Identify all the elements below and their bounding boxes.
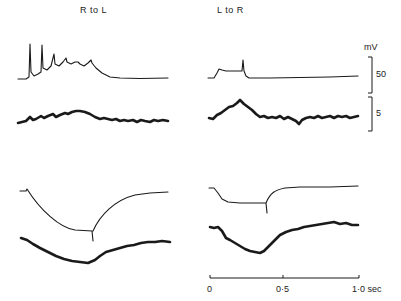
trace-r-to-l-hyperpol bbox=[20, 189, 168, 241]
traces-plot bbox=[0, 0, 401, 301]
trace-r-to-l-spikes bbox=[18, 44, 168, 79]
time-axis bbox=[210, 275, 359, 278]
trace-l-to-r-step bbox=[208, 60, 358, 78]
trace-r-to-l-small bbox=[18, 111, 168, 123]
time-tick-1-0: 1·0 sec bbox=[352, 284, 382, 294]
time-tick-0: 0 bbox=[207, 284, 212, 294]
scale-bar-50-label: 50 bbox=[376, 69, 386, 79]
trace-l-to-r-slow bbox=[210, 222, 358, 253]
trace-l-to-r-small bbox=[209, 100, 358, 124]
scale-bar-50mv bbox=[368, 57, 372, 93]
figure: R to L L to R mV 50 5 0 0·5 1·0 sec bbox=[0, 0, 401, 301]
scale-bar-5mv bbox=[368, 97, 372, 131]
trace-r-to-l-slow bbox=[21, 238, 170, 263]
trace-l-to-r-hyperpol bbox=[209, 186, 358, 213]
time-tick-0-5: 0·5 bbox=[276, 284, 289, 294]
scale-unit-label: mV bbox=[364, 42, 378, 52]
scale-bar-5-label: 5 bbox=[376, 108, 381, 118]
